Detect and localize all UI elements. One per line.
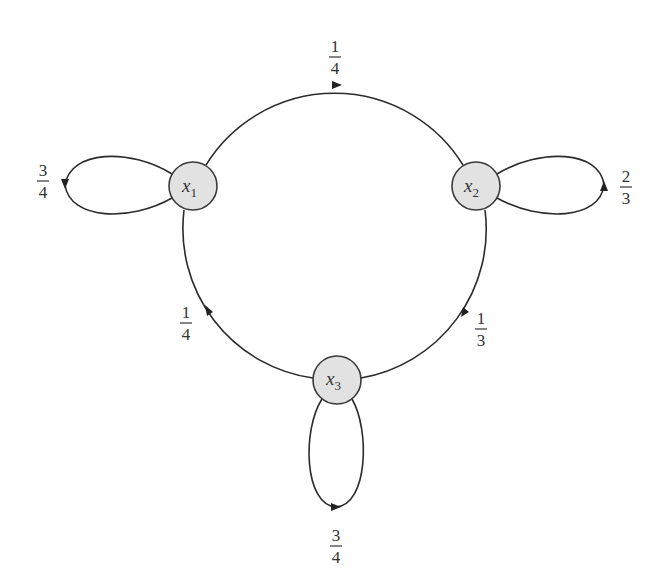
label-x3-to-x1: 1 4 <box>180 303 192 344</box>
edge-x3-to-x1 <box>183 210 313 378</box>
svg-text:1: 1 <box>182 303 191 322</box>
svg-text:2: 2 <box>622 167 631 186</box>
label-x2-to-x3: 1 3 <box>475 309 487 350</box>
svg-text:4: 4 <box>39 183 48 202</box>
arrow-x3-to-x1-icon <box>205 305 213 316</box>
arrow-loop-x3-icon <box>331 503 341 511</box>
arrow-x1-to-x2-icon <box>332 81 342 89</box>
markov-chain-diagram: x1 x2 x3 1 4 1 3 1 4 3 4 2 3 3 4 <box>0 0 667 586</box>
svg-text:3: 3 <box>332 526 341 545</box>
loop-x3 <box>309 399 363 507</box>
arrow-x2-to-x3-icon <box>461 307 469 317</box>
edge-x2-to-x3 <box>361 210 486 378</box>
svg-text:4: 4 <box>332 548 341 567</box>
node-x1: x1 <box>169 162 217 210</box>
svg-text:1: 1 <box>331 37 340 56</box>
label-loop-x3: 3 4 <box>330 526 342 567</box>
label-loop-x2: 2 3 <box>620 167 632 208</box>
svg-text:3: 3 <box>477 331 486 350</box>
node-x2: x2 <box>452 162 500 210</box>
svg-text:4: 4 <box>182 325 191 344</box>
svg-text:4: 4 <box>331 59 340 78</box>
label-x1-to-x2: 1 4 <box>329 37 341 78</box>
svg-text:1: 1 <box>477 309 486 328</box>
loop-x1 <box>65 156 172 214</box>
node-x3: x3 <box>313 356 361 404</box>
edge-x1-to-x2 <box>206 93 463 165</box>
label-loop-x1: 3 4 <box>37 161 49 202</box>
arrow-loop-x1-icon <box>61 179 69 189</box>
arrow-loop-x2-icon <box>600 181 608 191</box>
loop-x2 <box>497 156 604 214</box>
svg-text:3: 3 <box>39 161 48 180</box>
svg-text:3: 3 <box>622 189 631 208</box>
